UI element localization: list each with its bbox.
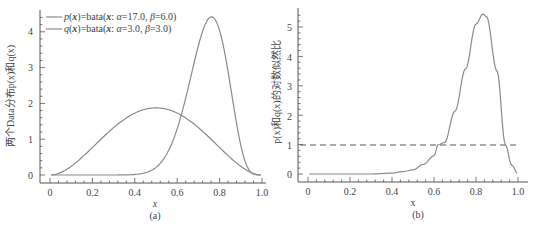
chart-a-xtick-5: 1.0 bbox=[256, 187, 269, 198]
chart-a-xlabel: x bbox=[152, 198, 158, 209]
chart-a-xtick-0: 0 bbox=[48, 187, 53, 198]
chart-b-curve-ratio bbox=[309, 14, 517, 174]
chart-a-ytick-2: 2 bbox=[28, 98, 33, 109]
chart-a-y-ticks bbox=[40, 17, 45, 175]
chart-a-ylabel: 两个Data分布p(x)和q(x) bbox=[5, 45, 17, 147]
chart-b-ytick-1: 1 bbox=[287, 140, 292, 151]
chart-b: 0 1 2 3 4 5 0 0.2 0.4 0.6 0.8 1.0 x p(x)… bbox=[270, 8, 528, 221]
chart-a-ytick-0: 0 bbox=[28, 170, 33, 181]
chart-b-ytick-4: 4 bbox=[287, 52, 292, 63]
chart-b-ytick-5: 5 bbox=[287, 22, 292, 33]
chart-a-x-ticks bbox=[50, 178, 262, 183]
chart-a: 0 1 2 3 4 0 0.2 0.4 0.6 0.8 1.0 x 两个Data… bbox=[5, 10, 268, 222]
chart-a-xtick-1: 0.2 bbox=[86, 187, 99, 198]
chart-b-xtick-5: 1.0 bbox=[512, 186, 525, 197]
chart-a-curve-q bbox=[51, 108, 261, 175]
chart-a-ytick-1: 1 bbox=[28, 134, 33, 145]
chart-a-xtick-3: 0.6 bbox=[171, 187, 184, 198]
chart-b-x-ticks bbox=[308, 177, 518, 182]
chart-b-xtick-2: 0.4 bbox=[386, 186, 399, 197]
chart-a-xtick-2: 0.4 bbox=[129, 187, 142, 198]
chart-a-xtick-4: 0.8 bbox=[213, 187, 226, 198]
chart-a-panel-label: (a) bbox=[149, 210, 160, 222]
chart-b-y-ticks bbox=[298, 15, 303, 174]
legend-label-p: p(x)=bata(x: α=17.0, β=6.0) bbox=[63, 11, 176, 23]
chart-b-xtick-3: 0.6 bbox=[428, 186, 441, 197]
chart-b-ytick-0: 0 bbox=[287, 169, 292, 180]
chart-b-ylabel: p(x)和q(x)的对数似然比 bbox=[270, 40, 283, 143]
legend-label-q: q(x)=bata(x: α=3.0, β=3.0) bbox=[64, 23, 171, 35]
chart-a-curve-p bbox=[51, 17, 261, 175]
chart-a-ytick-3: 3 bbox=[28, 62, 33, 73]
chart-a-ytick-4: 4 bbox=[28, 26, 33, 37]
chart-b-xtick-4: 0.8 bbox=[470, 186, 483, 197]
chart-b-xtick-1: 0.2 bbox=[344, 186, 357, 197]
figure: 0 1 2 3 4 0 0.2 0.4 0.6 0.8 1.0 x 两个Data… bbox=[0, 0, 540, 232]
chart-b-xtick-0: 0 bbox=[306, 186, 311, 197]
chart-b-panel-label: (b) bbox=[412, 209, 424, 221]
chart-b-xlabel: x bbox=[411, 197, 416, 208]
chart-a-legend: p(x)=bata(x: α=17.0, β=6.0) q(x)=bata(x:… bbox=[46, 11, 176, 35]
chart-b-ytick-3: 3 bbox=[287, 81, 292, 92]
chart-b-ytick-2: 2 bbox=[287, 111, 292, 122]
